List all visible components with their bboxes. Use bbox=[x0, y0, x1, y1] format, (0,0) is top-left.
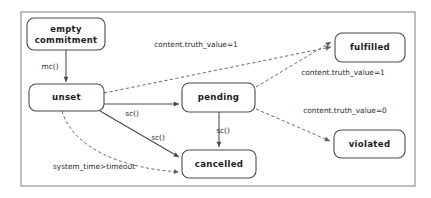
edge-label-unset-to-pending: sc() bbox=[125, 109, 139, 118]
edge-label-pending-to-violated: content.truth_value=0 bbox=[303, 106, 387, 115]
state-node-pending[interactable]: pending bbox=[182, 83, 255, 112]
node-label: violated bbox=[349, 139, 391, 149]
node-label: pending bbox=[198, 92, 240, 102]
state-diagram-canvas: emptycommitmentunsetpendingcancelledfulf… bbox=[0, 0, 431, 198]
edge-label-empty-to-unset: mc() bbox=[41, 62, 58, 71]
node-label: unset bbox=[52, 92, 81, 102]
node-label: cancelled bbox=[195, 159, 244, 169]
state-node-unset[interactable]: unset bbox=[29, 84, 104, 111]
node-label: fulfilled bbox=[350, 42, 390, 52]
edge-label-unset-to-cancelled: sc() bbox=[151, 133, 165, 142]
state-node-cancelled[interactable]: cancelled bbox=[182, 150, 256, 178]
state-diagram: emptycommitmentunsetpendingcancelledfulf… bbox=[0, 0, 431, 198]
edge-label-unset-to-cancelled-timeout: system_time>timeout bbox=[53, 162, 135, 171]
edge-label-unset-to-fulfilled: content.truth_value=1 bbox=[154, 40, 238, 49]
state-node-fulfilled[interactable]: fulfilled bbox=[335, 33, 405, 62]
edge-label-pending-to-cancelled: sc() bbox=[216, 126, 230, 135]
state-node-violated[interactable]: violated bbox=[334, 130, 405, 158]
edge-label-pending-to-fulfilled: content.truth_value=1 bbox=[301, 68, 385, 77]
state-node-empty-commitment[interactable]: emptycommitment bbox=[27, 18, 105, 50]
